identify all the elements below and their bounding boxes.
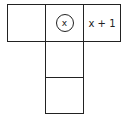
- cell-top-left: [7, 4, 46, 42]
- circled-label: x: [56, 14, 74, 32]
- cell-top-center: x: [45, 4, 84, 42]
- cell-middle-center: [45, 41, 84, 78]
- cell-label: x: [62, 18, 67, 28]
- cell-top-right: x + 1: [83, 4, 121, 42]
- cell-label: x + 1: [88, 18, 115, 29]
- cell-bottom-center: [45, 77, 84, 114]
